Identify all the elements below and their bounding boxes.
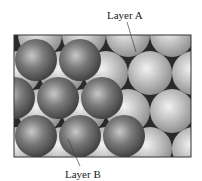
layer-b-label: Layer B [65, 168, 101, 180]
sphere-packing-diagram [0, 0, 202, 181]
layer-a-label: Layer A [107, 9, 143, 21]
